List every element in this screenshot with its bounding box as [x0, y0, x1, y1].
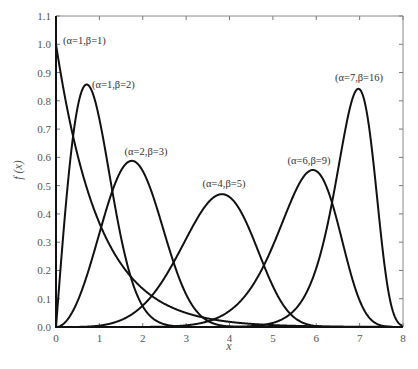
curve-label: (α=1,β=1): [63, 35, 106, 47]
x-tick-label: 5: [270, 332, 276, 344]
curve-label: (α=2,β=3): [125, 146, 168, 158]
y-tick-label: 0.8: [37, 95, 51, 107]
curve-alpha4-beta5: [56, 194, 403, 327]
x-axis-title: x: [225, 339, 232, 353]
y-tick-label: 0.7: [37, 123, 51, 135]
curve-label: (α=7,β=16): [335, 72, 384, 84]
curve-label: (α=1,β=2): [92, 79, 135, 91]
y-tick-label: 0.3: [37, 236, 51, 248]
curve-label: (α=4,β=5): [203, 178, 246, 190]
weibull-pdf-chart: 0123456780.00.10.20.30.40.50.60.70.80.91…: [0, 0, 418, 369]
x-tick-label: 1: [97, 332, 103, 344]
axis-tick-labels: 0123456780.00.10.20.30.40.50.60.70.80.91…: [37, 10, 406, 344]
y-axis-title: f (x): [11, 160, 25, 180]
y-tick-label: 0.1: [37, 293, 51, 305]
x-tick-label: 8: [400, 332, 406, 344]
y-tick-label: 0.6: [37, 151, 51, 163]
curve-labels: (α=1,β=1)(α=1,β=2)(α=2,β=3)(α=4,β=5)(α=6…: [63, 35, 384, 190]
x-tick-label: 6: [314, 332, 320, 344]
y-tick-label: 0.0: [37, 321, 51, 333]
x-tick-label: 0: [53, 332, 59, 344]
y-tick-label: 0.2: [37, 264, 51, 276]
y-tick-label: 1.0: [37, 38, 51, 50]
curve-label: (α=6,β=9): [288, 155, 331, 167]
y-tick-label: 0.4: [37, 208, 51, 220]
y-tick-label: 1.1: [37, 10, 51, 22]
x-tick-label: 2: [140, 332, 146, 344]
x-tick-label: 7: [357, 332, 363, 344]
curve-alpha7-beta16: [56, 89, 403, 327]
curve-alpha6-beta9: [56, 170, 403, 327]
y-tick-label: 0.9: [37, 67, 51, 79]
y-tick-label: 0.5: [37, 180, 51, 192]
x-tick-label: 3: [183, 332, 189, 344]
